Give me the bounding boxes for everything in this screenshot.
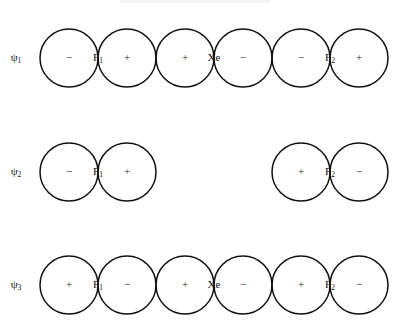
orbital-row-psi2: ψ2−++−F1F2 [11,143,388,201]
lobe-sign-label: + [124,51,130,63]
lobe-sign-label: + [182,278,188,290]
lobe-sign-label: + [66,278,72,290]
lobe-sign-label: + [182,51,188,63]
molecular-orbital-svg: ψ1−++−−+F1XeF2ψ2−++−F1F2ψ3+−+−+−F1XeF2 [0,0,410,328]
wavefunction-label-psi2: ψ2 [11,165,22,179]
atom-label-Xe: Xe [208,51,221,63]
lobe-sign-label: − [66,51,72,63]
wavefunction-label-psi1: ψ1 [11,51,22,65]
lobe-sign-label: − [240,51,246,63]
mo-diagram-figure: ψ1−++−−+F1XeF2ψ2−++−F1F2ψ3+−+−+−F1XeF2 [0,0,410,328]
orbital-row-psi1: ψ1−++−−+F1XeF2 [11,29,388,87]
wavefunction-label-psi3: ψ3 [11,278,22,292]
lobe-sign-label: + [356,51,362,63]
lobe-sign-label: + [298,278,304,290]
lobe-sign-label: + [298,165,304,177]
lobe-sign-label: − [356,278,362,290]
orbital-row-psi3: ψ3+−+−+−F1XeF2 [11,256,388,314]
lobe-sign-label: − [66,165,72,177]
lobe-sign-label: − [124,278,130,290]
lobe-sign-label: − [298,51,304,63]
lobe-sign-label: − [240,278,246,290]
lobe-sign-label: − [356,165,362,177]
atom-label-Xe: Xe [208,278,221,290]
lobe-sign-label: + [124,165,130,177]
orbital-rows-layer: ψ1−++−−+F1XeF2ψ2−++−F1F2ψ3+−+−+−F1XeF2 [11,29,388,314]
